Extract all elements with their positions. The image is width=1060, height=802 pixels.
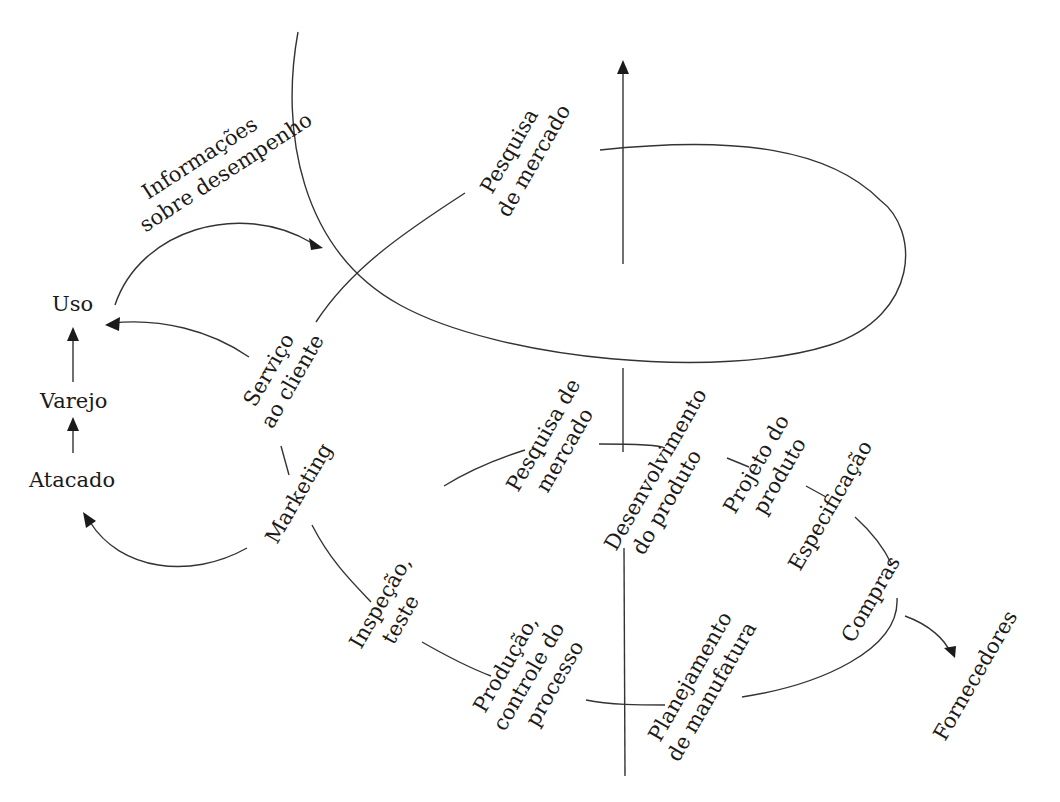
marketing-text: Marketing: [261, 439, 337, 547]
uso-arrowhead-icon: [105, 317, 120, 331]
varejo-uso-arrowhead-icon: [67, 327, 79, 341]
label-compras: Compras: [837, 552, 905, 647]
label-pesquisa-top: Pesquisa de mercado: [470, 87, 576, 221]
servico-to-uso-curve: [112, 322, 249, 357]
label-inspecao: Inspeção, teste: [345, 552, 439, 665]
label-uso: Uso: [52, 292, 93, 316]
axis-lower: [624, 548, 625, 776]
product-cycle-diagram: Informações sobre desempenho Uso Varejo …: [0, 0, 1060, 802]
label-servico: Serviço ao cliente: [234, 317, 329, 432]
informacoes-arrowhead-icon: [309, 238, 323, 250]
label-informacoes: Informações sobre desempenho: [121, 86, 316, 237]
fornecedores-arrowhead-icon: [944, 646, 956, 658]
label-pesquisa-mid: Pesquisa de mercado: [502, 374, 608, 508]
marketing-inspecao-curve: [312, 525, 371, 602]
axis-arrowhead-icon: [617, 60, 629, 74]
inspecao-producao-curve: [422, 642, 491, 676]
label-producao: Produção, controle do processo: [466, 605, 592, 748]
producao-planejamento-curve: [586, 700, 665, 705]
label-fornecedores: Fornecedores: [929, 606, 1023, 744]
label-atacado: Atacado: [28, 468, 115, 492]
label-varejo: Varejo: [39, 389, 107, 413]
label-planejamento: Planejamento de manufatura: [640, 605, 762, 766]
label-projeto: Projeto do produto: [719, 411, 817, 531]
marketing-to-atacado-curve: [90, 522, 247, 567]
label-marketing: Marketing: [261, 439, 337, 547]
compras-fornecedores-curve: [905, 616, 950, 652]
informacoes-arrow-curve: [115, 223, 312, 305]
atacado-varejo-arrowhead-icon: [67, 417, 79, 431]
fornecedores-text: Fornecedores: [929, 606, 1023, 744]
atacado-arrowhead-icon: [83, 512, 96, 528]
label-desenvolvimento: Desenvolvimento do produto: [600, 384, 735, 567]
compras-text: Compras: [837, 552, 905, 647]
outer-spiral-curve: [292, 32, 906, 362]
servico-to-pesquisa-curve: [316, 193, 465, 322]
servico-marketing-line: [281, 446, 289, 475]
